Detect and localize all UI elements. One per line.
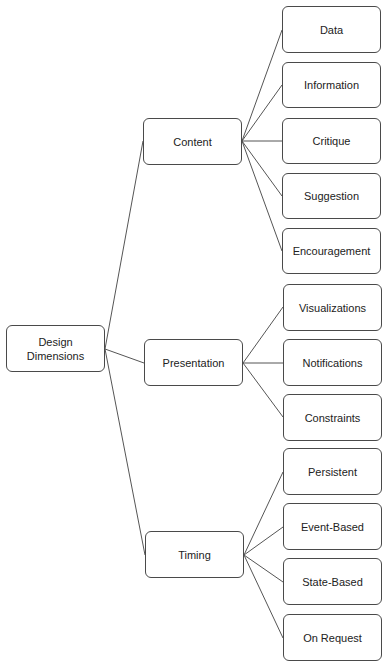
leaf-label: Event-Based <box>301 520 364 534</box>
category-label: Presentation <box>163 356 225 370</box>
category-node-presentation: Presentation <box>144 339 243 386</box>
design-dimensions-tree-diagram: Design Dimensions Content Presentation T… <box>0 0 390 668</box>
leaf-node-visualizations: Visualizations <box>283 284 382 331</box>
leaf-label: Encouragement <box>293 244 371 258</box>
leaf-node-encouragement: Encouragement <box>282 228 381 274</box>
leaf-label: Critique <box>313 134 351 148</box>
connector-root-to-content <box>105 141 143 349</box>
leaf-label: Information <box>304 78 359 92</box>
leaf-label: Constraints <box>305 411 361 425</box>
leaf-label: Persistent <box>308 465 357 479</box>
leaf-node-event-based: Event-Based <box>283 503 382 550</box>
category-label: Timing <box>178 548 211 562</box>
leaf-node-notifications: Notifications <box>283 339 382 386</box>
connector-timing-to-persistent <box>244 472 283 555</box>
leaf-label: Suggestion <box>304 189 359 203</box>
leaf-node-constraints: Constraints <box>283 394 382 441</box>
leaf-label: Notifications <box>303 356 363 370</box>
connector-content-to-data <box>242 30 282 141</box>
root-node-label: Design Dimensions <box>27 335 84 363</box>
connector-presentation-to-visualizations <box>243 307 283 363</box>
connector-timing-to-on-request <box>244 555 283 638</box>
connector-root-to-presentation <box>105 349 144 363</box>
connector-timing-to-event-based <box>244 527 283 555</box>
leaf-node-critique: Critique <box>282 118 381 164</box>
connector-content-to-encouragement <box>242 141 282 251</box>
leaf-node-persistent: Persistent <box>283 448 382 495</box>
connector-content-to-information <box>242 85 282 141</box>
leaf-node-suggestion: Suggestion <box>282 173 381 219</box>
leaf-node-information: Information <box>282 62 381 108</box>
leaf-node-on-request: On Request <box>283 614 382 661</box>
connector-root-to-timing <box>105 349 145 555</box>
leaf-label: On Request <box>303 631 362 645</box>
leaf-node-state-based: State-Based <box>283 558 382 605</box>
category-node-timing: Timing <box>145 531 244 578</box>
connector-presentation-to-constraints <box>243 363 283 417</box>
leaf-label: Visualizations <box>299 301 366 315</box>
leaf-label: Data <box>320 23 343 37</box>
category-label: Content <box>173 135 212 149</box>
leaf-label: State-Based <box>302 575 363 589</box>
connector-content-to-suggestion <box>242 141 282 196</box>
category-node-content: Content <box>143 118 242 165</box>
leaf-node-data: Data <box>282 6 381 53</box>
root-node-design-dimensions: Design Dimensions <box>6 325 105 372</box>
